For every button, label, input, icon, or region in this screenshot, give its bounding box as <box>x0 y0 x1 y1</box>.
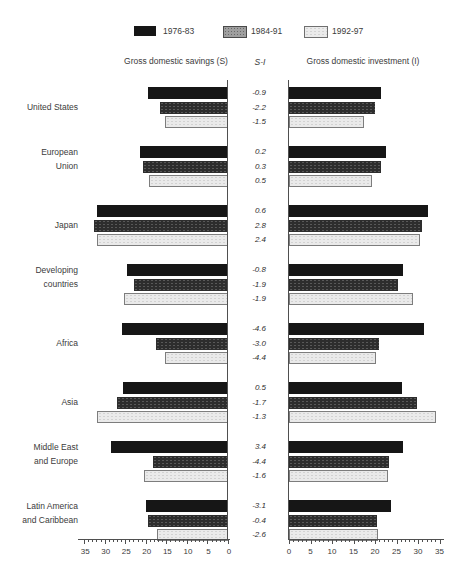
region-label-latin-america-and-caribbean: and Caribbean <box>0 515 78 526</box>
right-axis-tick-9 <box>328 540 329 542</box>
savings-bar-developing-countries-1984-91 <box>134 279 228 291</box>
region-label-middle-east-and-europe: Middle East <box>0 442 78 453</box>
right-zero-baseline <box>288 80 289 540</box>
left-axis-tick-18 <box>154 540 155 542</box>
s-minus-i-value-european-union-1992-97: 0.5 <box>226 176 266 186</box>
right-axis-tick-32 <box>427 540 428 542</box>
right-axis-label-10: 10 <box>322 547 342 556</box>
savings-bar-asia-1992-97 <box>97 411 228 423</box>
savings-bar-middle-east-and-europe-1984-91 <box>153 456 228 468</box>
left-axis-tick-33 <box>92 540 93 542</box>
right-axis-tick-30 <box>418 540 419 544</box>
right-axis-tick-11 <box>336 540 337 542</box>
s-minus-i-value-european-union-1984-91: 0.3 <box>226 162 266 172</box>
savings-bar-japan-1992-97 <box>97 234 228 246</box>
right-axis-label-5: 5 <box>301 547 321 556</box>
s-minus-i-value-united-states-1992-97: -1.5 <box>226 117 266 127</box>
left-axis-tick-4 <box>212 540 213 542</box>
right-axis-tick-28 <box>409 540 410 542</box>
left-axis-tick-17 <box>158 540 159 542</box>
savings-bar-africa-1984-91 <box>156 338 228 350</box>
savings-bar-asia-1976-83 <box>123 382 228 394</box>
savings-bar-latin-america-and-caribbean-1976-83 <box>146 500 228 512</box>
region-label-united-states: United States <box>0 102 78 113</box>
right-axis-tick-27 <box>405 540 406 542</box>
left-axis-tick-10 <box>187 540 188 544</box>
left-axis-tick-31 <box>101 540 102 542</box>
left-axis-label-0: 0 <box>219 547 239 556</box>
right-axis-tick-20 <box>375 540 376 544</box>
s-minus-i-value-asia-1984-91: -1.7 <box>226 398 266 408</box>
right-axis-tick-25 <box>397 540 398 544</box>
right-axis-tick-21 <box>379 540 380 542</box>
left-axis-tick-27 <box>117 540 118 542</box>
right-axis-tick-12 <box>341 540 342 542</box>
s-minus-i-value-european-union-1976-83: 0.2 <box>226 147 266 157</box>
investment-bar-developing-countries-1992-97 <box>289 293 413 305</box>
left-axis-label-5: 5 <box>198 547 218 556</box>
investment-bar-latin-america-and-caribbean-1984-91 <box>289 515 377 527</box>
left-zero-baseline <box>227 80 228 540</box>
left-axis-tick-22 <box>138 540 139 542</box>
s-minus-i-value-asia-1992-97: -1.3 <box>226 412 266 422</box>
investment-bar-africa-1992-97 <box>289 352 376 364</box>
left-axis-tick-28 <box>113 540 114 542</box>
right-axis-label-0: 0 <box>279 547 299 556</box>
left-axis-tick-8 <box>195 540 196 542</box>
investment-bar-middle-east-and-europe-1992-97 <box>289 470 388 482</box>
right-axis-tick-8 <box>323 540 324 542</box>
savings-bar-european-union-1976-83 <box>140 146 228 158</box>
left-axis-tick-9 <box>191 540 192 542</box>
investment-bar-european-union-1992-97 <box>289 175 372 187</box>
s-minus-i-value-middle-east-and-europe-1992-97: -1.6 <box>226 471 266 481</box>
region-label-european-union: European <box>0 147 78 158</box>
right-axis-label-35: 35 <box>430 547 450 556</box>
investment-bar-africa-1984-91 <box>289 338 379 350</box>
investment-bar-africa-1976-83 <box>289 323 424 335</box>
left-axis-tick-1 <box>224 540 225 542</box>
s-minus-i-value-latin-america-and-caribbean-1976-83: -3.1 <box>226 501 266 511</box>
left-axis-tick-26 <box>121 540 122 542</box>
investment-bar-japan-1992-97 <box>289 234 420 246</box>
savings-bar-africa-1976-83 <box>122 323 228 335</box>
region-label-latin-america-and-caribbean: Latin America <box>0 501 78 512</box>
left-axis-tick-32 <box>96 540 97 542</box>
right-axis-tick-18 <box>366 540 367 542</box>
s-minus-i-value-united-states-1984-91: -2.2 <box>226 103 266 113</box>
right-axis-tick-24 <box>392 540 393 542</box>
right-axis-tick-5 <box>311 540 312 544</box>
s-minus-i-value-africa-1984-91: -3.0 <box>226 339 266 349</box>
savings-bar-united-states-1992-97 <box>165 116 228 128</box>
s-minus-i-value-japan-1984-91: 2.8 <box>226 221 266 231</box>
investment-bar-developing-countries-1976-83 <box>289 264 403 276</box>
investment-bar-latin-america-and-caribbean-1976-83 <box>289 500 391 512</box>
investment-bar-asia-1984-91 <box>289 397 417 409</box>
left-axis-tick-34 <box>88 540 89 542</box>
savings-bar-latin-america-and-caribbean-1984-91 <box>148 515 228 527</box>
left-axis-tick-2 <box>220 540 221 542</box>
right-axis-tick-6 <box>315 540 316 542</box>
region-label-middle-east-and-europe: and Europe <box>0 456 78 467</box>
right-axis-tick-14 <box>349 540 350 542</box>
region-label-africa: Africa <box>0 338 78 349</box>
left-axis-tick-15 <box>166 540 167 544</box>
savings-bar-european-union-1984-91 <box>143 161 228 173</box>
plot-area: United States-0.9-2.2-1.5EuropeanUnion0.… <box>0 0 469 583</box>
right-axis-tick-16 <box>358 540 359 542</box>
right-axis-tick-1 <box>293 540 294 542</box>
right-axis-tick-33 <box>431 540 432 542</box>
savings-bar-united-states-1976-83 <box>148 87 228 99</box>
region-label-developing-countries: countries <box>0 279 78 290</box>
investment-bar-asia-1992-97 <box>289 411 436 423</box>
savings-bar-asia-1984-91 <box>117 397 228 409</box>
right-axis-tick-22 <box>384 540 385 542</box>
investment-bar-united-states-1992-97 <box>289 116 364 128</box>
left-axis-tick-35 <box>84 540 85 544</box>
s-minus-i-value-japan-1992-97: 2.4 <box>226 235 266 245</box>
s-minus-i-value-developing-countries-1976-83: -0.8 <box>226 265 266 275</box>
right-axis-label-15: 15 <box>344 547 364 556</box>
investment-bar-asia-1976-83 <box>289 382 402 394</box>
right-axis-tick-29 <box>414 540 415 542</box>
s-minus-i-value-united-states-1976-83: -0.9 <box>226 88 266 98</box>
s-minus-i-value-japan-1976-83: 0.6 <box>226 206 266 216</box>
